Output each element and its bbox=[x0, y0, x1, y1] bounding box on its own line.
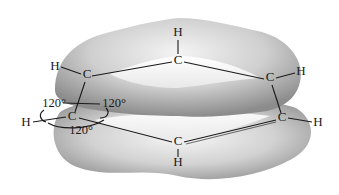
atom-c-left: C bbox=[68, 108, 77, 123]
atom-c-lower-right: C bbox=[278, 109, 287, 124]
atom-h-bottom: H bbox=[173, 154, 182, 169]
benzene-diagram: C C C C C C H H H H H H 120° 120° 120° bbox=[0, 0, 339, 195]
atom-h-upper-right: H bbox=[296, 63, 305, 78]
angle-label-lower: 120° bbox=[69, 123, 93, 137]
atom-c-upper-right: C bbox=[266, 69, 275, 84]
atom-c-top: C bbox=[174, 52, 183, 67]
atom-h-top: H bbox=[173, 24, 182, 39]
atom-h-upper-left: H bbox=[50, 58, 59, 73]
atom-c-bottom: C bbox=[174, 133, 183, 148]
atom-c-upper-left: C bbox=[83, 66, 92, 81]
angle-label-upper-right: 120° bbox=[102, 96, 126, 110]
angle-label-upper-left: 120° bbox=[42, 96, 66, 110]
atom-h-left: H bbox=[21, 114, 30, 129]
atom-h-lower-right: H bbox=[313, 114, 322, 129]
